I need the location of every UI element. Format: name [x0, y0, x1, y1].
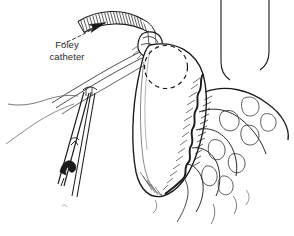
medical-illustration-figure: Foley catheter	[0, 0, 294, 236]
foley-catheter-label-line2: catheter	[38, 51, 96, 63]
foley-catheter-label-line1: Foley	[38, 39, 96, 51]
foley-catheter-label: Foley catheter	[38, 39, 96, 62]
illustration-canvas	[0, 0, 294, 236]
